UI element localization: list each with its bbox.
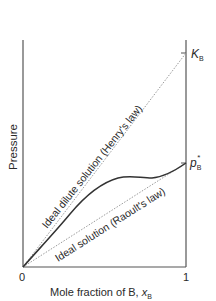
y-axis-label: Pressure xyxy=(7,124,19,170)
pb-star-label: pB* xyxy=(189,153,202,171)
x-tick-0: 0 xyxy=(19,271,25,283)
x-axis-label: Mole fraction of B, xB xyxy=(50,286,152,300)
chart: Ideal dilute solution (Henry's law) Idea… xyxy=(0,0,216,301)
x-tick-1: 1 xyxy=(183,271,189,283)
kb-label: KB xyxy=(191,47,204,62)
henry-line xyxy=(23,53,186,267)
